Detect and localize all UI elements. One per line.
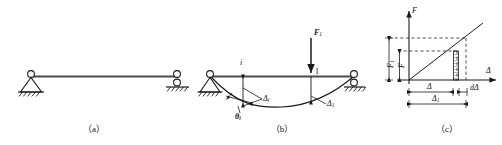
- panel-b-theta-i-subscript: i: [239, 115, 241, 121]
- pin-support-left-a: [18, 71, 44, 97]
- panel-a-caption: （a）: [74, 122, 114, 135]
- panel-b-point-i-label: i: [240, 58, 242, 67]
- panel-c-y-axis-label: F: [412, 6, 417, 15]
- panel-c-delta-label: Δ: [427, 82, 432, 91]
- panel-b-delta-i-label: Δi: [263, 94, 269, 103]
- panel-b-force-subscript: 1: [319, 31, 322, 37]
- panel-c-graphics: [385, 11, 496, 108]
- panel-c-f1-symbol: F: [386, 63, 395, 68]
- load-displacement-line-c: [409, 23, 483, 80]
- panel-b-force-label: F1: [314, 28, 322, 37]
- d-delta-dimension-c: [457, 88, 468, 96]
- figure-container: （a） i F1 1 Δi Δ1 θi （b） F Δ F1 F Δ dΔ Δ1…: [0, 0, 502, 145]
- panel-b-point-1-label: 1: [315, 67, 319, 76]
- differential-strip-c: [454, 51, 459, 80]
- panel-c-f1-subscript: 1: [389, 60, 395, 63]
- panel-c-f1-label: F1: [386, 60, 395, 68]
- panel-b-delta-1-label: Δ1: [327, 99, 334, 108]
- panel-b-graphics: [198, 38, 366, 113]
- panel-b-delta-i-subscript: i: [268, 97, 270, 103]
- roller-support-right-a: [166, 71, 189, 92]
- delta-1-graphics-b: [309, 77, 326, 105]
- panel-c-delta-1-subscript: 1: [437, 97, 440, 103]
- panel-b-caption: （b）: [262, 122, 302, 135]
- panel-c-d-delta-label: dΔ: [470, 83, 479, 92]
- panel-c-caption: （c）: [427, 122, 467, 135]
- panel-c-x-axis-label: Δ: [486, 66, 491, 75]
- panel-b-delta-1-subscript: 1: [332, 102, 335, 108]
- panel-c-delta-1-label: Δ1: [432, 94, 439, 103]
- f1-dimension-c: [385, 36, 393, 82]
- panel-c-f-label: F: [397, 63, 406, 68]
- panel-a-graphics: [18, 71, 189, 97]
- pin-support-left-b: [198, 71, 223, 97]
- panel-b-theta-i-label: θi: [235, 112, 241, 121]
